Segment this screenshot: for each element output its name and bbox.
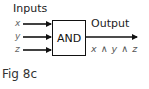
figure-caption: Fig 8c [2, 68, 37, 80]
gate-label: AND [57, 32, 81, 45]
inputs-label: Inputs [13, 3, 47, 14]
input-x-label: x [15, 19, 20, 28]
and-gate-box: AND [52, 20, 86, 56]
input-y-label: y [15, 32, 20, 41]
input-z-label: z [15, 45, 20, 54]
output-expression: x ∧ y ∧ z [91, 44, 138, 54]
output-label: Output [91, 18, 129, 29]
